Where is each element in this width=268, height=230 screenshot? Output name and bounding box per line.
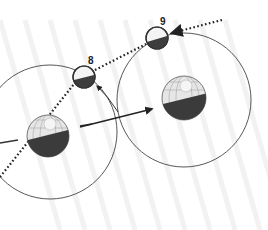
moon-label: 9: [160, 16, 166, 27]
earth-motion-arrow: [80, 109, 152, 127]
moon-orbit-diagram: 8 9: [0, 0, 268, 230]
moon-label: 8: [88, 55, 94, 66]
moon-9: 9: [143, 16, 171, 52]
sun-ray-line: [0, 140, 18, 143]
